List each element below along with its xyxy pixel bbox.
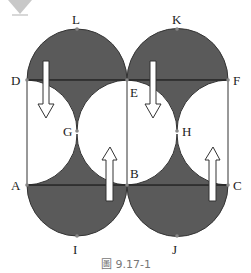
label-A: A — [11, 178, 21, 193]
top-semicircle-right — [127, 28, 228, 80]
top-cusp-right — [127, 80, 228, 131]
label-K: K — [172, 12, 182, 27]
figure-caption: 圖 9.17-1 — [101, 258, 151, 271]
top-semicircle-left — [27, 29, 127, 80]
top-marker-icon — [8, 0, 32, 16]
label-D: D — [11, 73, 20, 88]
label-G: G — [63, 124, 72, 139]
label-L: L — [72, 12, 80, 27]
label-J: J — [172, 242, 177, 257]
label-I: I — [73, 242, 77, 257]
label-H: H — [182, 124, 191, 139]
label-C: C — [233, 178, 242, 193]
figure-diagram: L K D E F G H A B C I J 圖 9.17-1 — [0, 0, 251, 273]
label-F: F — [233, 73, 240, 88]
label-B: B — [130, 166, 139, 181]
label-E: E — [130, 85, 138, 100]
